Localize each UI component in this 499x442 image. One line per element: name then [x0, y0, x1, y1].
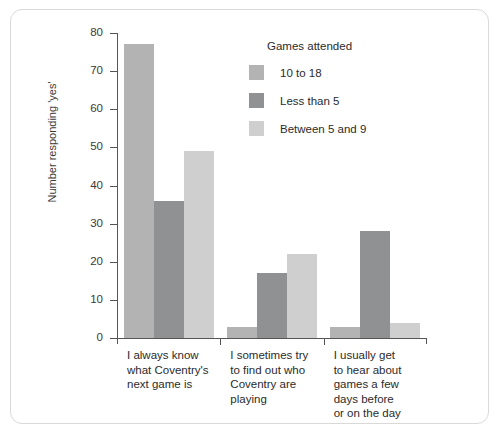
x-axis-category-label-line: games a few [334, 377, 431, 392]
x-axis-right-cap [426, 338, 427, 344]
legend-item: 10 to 18 [249, 61, 439, 84]
x-axis-category-label-line: I usually get [334, 348, 431, 363]
x-axis-category-label-line: playing [230, 392, 327, 407]
legend-entries: 10 to 18Less than 5Between 5 and 9 [249, 61, 439, 140]
y-axis-title: Number responding 'yes' [46, 47, 58, 237]
bar [227, 327, 257, 338]
legend: Games attended 10 to 18Less than 5Betwee… [249, 40, 439, 145]
bar [287, 254, 317, 338]
y-axis-tick-label: 80 [43, 27, 103, 39]
x-axis-category-label: I usually getto hear aboutgames a fewday… [334, 348, 431, 421]
x-axis-category-label-line: I always know [127, 348, 224, 363]
chart-figure: 01020304050607080 Number responding 'yes… [0, 0, 499, 442]
y-axis-tick [110, 224, 117, 225]
x-axis-group-separator [324, 338, 325, 345]
y-axis-tick [110, 262, 117, 263]
bar [257, 273, 287, 338]
x-axis-category-label-line: Coventry are [230, 377, 327, 392]
x-axis-category-label-line: I sometimes try [230, 348, 327, 363]
x-axis-category-label-line: what Coventry's [127, 363, 224, 378]
x-axis-group-separator [220, 338, 221, 345]
x-axis-line [117, 338, 427, 339]
x-axis-left-cap [117, 338, 118, 344]
bar [390, 323, 420, 338]
bar [124, 44, 154, 338]
bar [154, 201, 184, 338]
legend-title: Games attended [267, 40, 439, 52]
x-axis-category-label-line: to hear about [334, 363, 431, 378]
bar [330, 327, 360, 338]
y-axis-tick-label: 0 [43, 332, 103, 344]
y-axis-tick [110, 338, 117, 339]
y-axis-tick [110, 186, 117, 187]
x-axis-category-label-line: days before [334, 392, 431, 407]
legend-swatch [249, 65, 264, 80]
legend-label: 10 to 18 [280, 67, 322, 79]
legend-item: Between 5 and 9 [249, 117, 439, 140]
bar [184, 151, 214, 338]
legend-label: Between 5 and 9 [280, 123, 366, 135]
x-axis-category-label-line: next game is [127, 377, 224, 392]
y-axis-tick [110, 33, 117, 34]
y-axis-tick [110, 71, 117, 72]
x-axis-category-label-line: or on the day [334, 406, 431, 421]
legend-swatch [249, 121, 264, 136]
legend-swatch [249, 93, 264, 108]
y-axis-tick-label: 10 [43, 294, 103, 306]
x-axis-category-label-line: to find out who [230, 363, 327, 378]
y-axis-tick [110, 147, 117, 148]
x-axis-category-label: I always knowwhat Coventry'snext game is [127, 348, 224, 392]
y-axis-tick [110, 300, 117, 301]
bar [360, 231, 390, 338]
y-axis-tick-label: 20 [43, 256, 103, 268]
legend-item: Less than 5 [249, 89, 439, 112]
y-axis-tick [110, 109, 117, 110]
legend-label: Less than 5 [280, 95, 339, 107]
x-axis-category-label: I sometimes tryto find out whoCoventry a… [230, 348, 327, 406]
